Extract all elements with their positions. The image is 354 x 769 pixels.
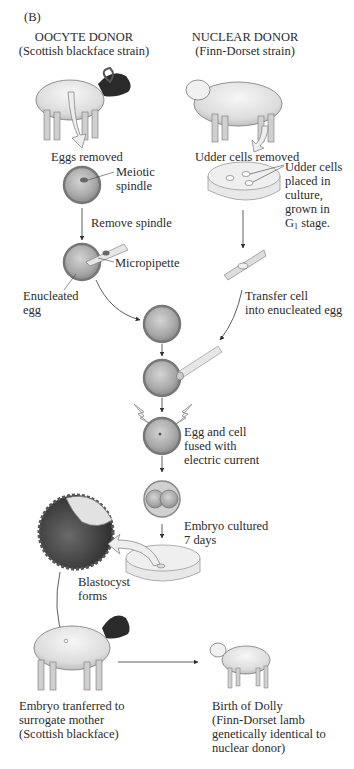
- dolly-label-2: (Finn-Dorset lamb: [212, 713, 305, 727]
- transfer-cell-label-2: into enucleated egg: [245, 303, 342, 317]
- eggs-removed-label: Eggs removed: [51, 150, 123, 164]
- fused-label-1: Egg and cell: [184, 425, 246, 439]
- egg-injection-icon: [144, 346, 222, 396]
- blastocyst-label-2: forms: [78, 589, 107, 603]
- oocyte-donor-strain: (Scottish blackface strain): [14, 44, 154, 58]
- surrogate-label-1: Embryo tranferred to: [19, 699, 125, 713]
- enucleated-egg-label-1: Enucleated: [23, 289, 79, 303]
- meiotic-spindle-label-2: spindle: [116, 179, 152, 193]
- meiotic-spindle-label-1: Meiotic: [116, 165, 155, 179]
- udder-culture-label-3: culture,: [285, 188, 323, 202]
- dolly-label-3: genetically identical to: [212, 727, 326, 741]
- surrogate-mother-sheep-icon: [34, 616, 130, 690]
- udder-culture-label-2: placed in: [285, 174, 330, 188]
- enucleated-egg-label-2: egg: [23, 303, 41, 317]
- cloning-diagram-art: [0, 0, 354, 769]
- dolly-label-4: nuclear donor): [212, 741, 285, 755]
- fused-label-2: fused with: [184, 439, 236, 453]
- stage-label: stage.: [298, 216, 330, 230]
- electric-spark-right-icon: [176, 404, 192, 424]
- nuclear-donor-title: NUCLEAR DONOR: [186, 30, 304, 44]
- electric-spark-left-icon: [134, 404, 150, 424]
- micropipette-label: Micropipette: [115, 256, 180, 270]
- enucleated-egg-center-icon: [144, 306, 180, 342]
- dolly-label-1: Birth of Dolly: [212, 699, 283, 713]
- udder-cells-removed-label: Udder cells removed: [195, 150, 299, 164]
- fused-label-3: electric current: [184, 453, 259, 467]
- udder-culture-label-4: grown in: [285, 202, 330, 216]
- embryo-cultured-label-2: 7 days: [184, 533, 216, 547]
- dolly-lamb-icon: [210, 643, 270, 688]
- donor-cell-pipette-icon: [224, 250, 266, 280]
- blastocyst-label-1: Blastocyst: [78, 575, 130, 589]
- fused-egg-icon: [144, 418, 180, 454]
- oocyte-donor-title: OOCYTE DONOR: [22, 30, 146, 44]
- egg-with-spindle-icon: [64, 167, 114, 203]
- two-cell-embryo-icon: [144, 481, 180, 517]
- panel-label: (B): [24, 10, 41, 24]
- blastocyst-icon: [39, 495, 113, 569]
- nuclear-donor-strain: (Finn-Dorset strain): [186, 44, 304, 58]
- surrogate-label-3: (Scottish blackface): [19, 727, 119, 741]
- udder-culture-label-1: Udder cells: [285, 160, 342, 174]
- g-label: G: [285, 216, 294, 230]
- surrogate-label-2: surrogate mother: [19, 713, 104, 727]
- transfer-cell-label-1: Transfer cell: [245, 289, 308, 303]
- remove-spindle-label: Remove spindle: [91, 216, 172, 230]
- culture-dish-icon: [208, 162, 284, 200]
- embryo-cultured-label-1: Embryo cultured: [184, 519, 268, 533]
- udder-culture-label-5: G1 stage.: [285, 216, 330, 234]
- oocyte-donor-sheep-icon: [36, 68, 131, 140]
